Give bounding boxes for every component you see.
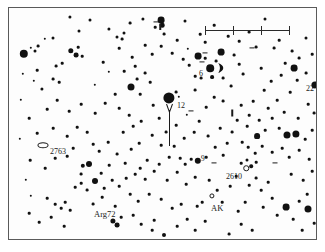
star-point: [141, 17, 144, 20]
star-point: [248, 114, 251, 117]
star-point: [307, 103, 310, 106]
star-point: [283, 111, 286, 114]
star-point: [123, 32, 126, 35]
star-point: [163, 33, 166, 36]
star-point: [68, 15, 71, 18]
star-point: [55, 65, 58, 68]
star-point: [176, 39, 179, 42]
star-point: [289, 91, 292, 94]
star-point: [210, 75, 214, 79]
scale-bar-tick: [289, 26, 290, 35]
scale-bar-line: [205, 30, 289, 31]
star-point: [229, 185, 232, 188]
star-point: [296, 79, 299, 82]
star-point: [271, 197, 274, 200]
tick-mark: [250, 47, 255, 48]
tick-mark: [273, 162, 278, 163]
star-point: [204, 57, 207, 60]
star-point: [52, 78, 55, 81]
star-point: [134, 65, 137, 68]
star-point: [175, 91, 178, 94]
star-point: [107, 141, 110, 144]
star-point: [120, 216, 123, 219]
star-point: [166, 179, 169, 182]
star-point: [80, 173, 83, 176]
star-point: [28, 117, 31, 120]
star-point: [222, 100, 225, 103]
star-point: [298, 57, 301, 60]
star-point: [263, 89, 266, 92]
star-point: [262, 206, 265, 209]
scale-bar: [205, 26, 289, 36]
star-point: [258, 119, 261, 122]
star-point: [278, 39, 281, 42]
star-point: [100, 172, 103, 175]
star-point: [195, 53, 202, 60]
star-point: [267, 107, 270, 110]
star-point: [168, 156, 171, 159]
star-point: [114, 205, 117, 208]
star-point: [138, 142, 141, 145]
star-point: [54, 203, 57, 206]
star-point: [89, 19, 92, 22]
star-point: [108, 71, 110, 73]
star-point: [219, 127, 222, 130]
label-ak: AK: [211, 204, 223, 213]
star-point: [38, 221, 41, 224]
star-point: [158, 163, 161, 166]
star-point: [260, 189, 263, 192]
star-point: [215, 60, 218, 63]
star-point: [290, 173, 293, 176]
star-point: [213, 96, 216, 99]
star-point: [261, 145, 264, 148]
star-point: [69, 209, 72, 212]
star-point: [255, 177, 258, 180]
arrow-head-r: [169, 104, 173, 113]
scale-bar-tick: [205, 26, 206, 35]
star-point: [267, 181, 270, 184]
star-point: [207, 135, 210, 138]
star-point: [20, 50, 28, 58]
star-point: [246, 125, 249, 128]
star-point: [292, 130, 299, 137]
star-point: [20, 99, 22, 101]
star-point: [214, 146, 217, 149]
star-point: [78, 30, 81, 33]
star-point: [240, 104, 243, 107]
scale-bar-tick: [233, 26, 234, 35]
star-point: [185, 183, 188, 186]
star-point: [34, 50, 37, 53]
star-point: [132, 214, 135, 217]
star-point: [304, 138, 307, 141]
star-point: [30, 195, 32, 197]
star-point: [86, 189, 89, 192]
star-point: [134, 173, 137, 176]
star-point: [80, 103, 83, 106]
star-point: [115, 223, 120, 228]
star-point: [230, 85, 233, 88]
star-point: [54, 157, 57, 160]
star-point: [205, 156, 208, 159]
star-point: [160, 144, 163, 147]
star-point: [123, 70, 126, 73]
star-point: [103, 187, 106, 190]
star-point: [50, 216, 53, 219]
star-point: [305, 72, 308, 75]
star-point: [238, 40, 241, 43]
star-point: [140, 223, 143, 226]
star-point: [108, 164, 111, 167]
tick-mark: [231, 110, 233, 117]
star-point: [190, 158, 193, 161]
star-point: [305, 206, 312, 213]
star-point: [251, 229, 254, 232]
star-point: [76, 126, 79, 129]
star-point: [44, 38, 46, 40]
star-point: [160, 198, 163, 201]
star-point: [291, 50, 294, 53]
star-point: [271, 117, 274, 120]
label-22: 22: [306, 85, 314, 93]
star-point: [121, 38, 124, 41]
star-point: [248, 184, 251, 187]
star-point: [222, 154, 225, 157]
star-point: [313, 112, 316, 115]
